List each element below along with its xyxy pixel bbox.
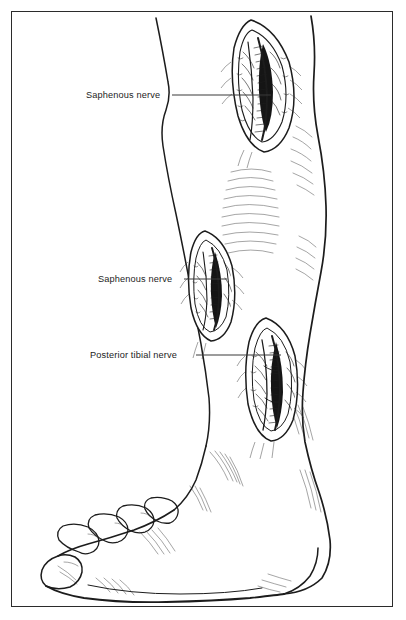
figure-root: Saphenous nerve Saphenous nerve Posterio… bbox=[0, 0, 406, 620]
figure-border-frame bbox=[11, 11, 393, 607]
